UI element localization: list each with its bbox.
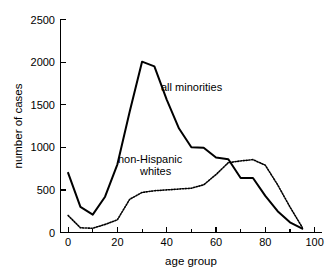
y-axis-title: number of cases (12, 83, 24, 168)
x-tick-label-40: 40 (161, 236, 173, 248)
x-tick-label-60: 60 (210, 236, 222, 248)
x-tick-label-80: 80 (259, 236, 271, 248)
series-label-non-hispanic-whites-line2: whites (139, 165, 172, 177)
x-tick-label-20: 20 (111, 236, 123, 248)
y-tick-label-2000: 2000 (31, 56, 55, 68)
y-tick-label-2500: 2500 (31, 14, 55, 26)
chart-figure: 2500 2000 1500 1000 500 0 0 20 40 60 (0, 0, 333, 275)
series-label-all-minorities: all minorities (161, 81, 223, 93)
y-tick-label-1500: 1500 (31, 99, 55, 111)
series-line-non-hispanic-whites (68, 160, 302, 229)
x-axis-title: age group (165, 255, 217, 267)
series-label-non-hispanic-whites-line1: non-Hispanic (118, 153, 183, 165)
x-axis-ticks (68, 227, 315, 233)
x-tick-label-0: 0 (65, 236, 71, 248)
y-axis-ticks (61, 20, 67, 233)
x-tick-label-100: 100 (305, 236, 323, 248)
y-tick-label-0: 0 (49, 227, 55, 239)
y-axis-tick-labels: 2500 2000 1500 1000 500 0 (31, 14, 55, 239)
chart-plot-area: 2500 2000 1500 1000 500 0 0 20 40 60 (0, 0, 333, 275)
x-axis-tick-labels: 0 20 40 60 80 100 (65, 236, 324, 248)
y-tick-label-500: 500 (37, 184, 55, 196)
y-tick-label-1000: 1000 (31, 141, 55, 153)
